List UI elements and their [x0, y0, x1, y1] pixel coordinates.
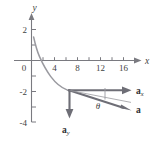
x-axis-label: x	[144, 56, 150, 66]
x-tick-label-12: 12	[96, 63, 105, 73]
y-tick-label-2: 2	[23, 25, 28, 35]
angle-theta-label: θ	[96, 101, 101, 111]
vector-label-a-y-sub: y	[66, 129, 70, 136]
x-axis-arrowhead	[134, 58, 142, 64]
x-tick-label-4: 4	[52, 63, 57, 73]
y-axis-arrowhead	[29, 13, 35, 20]
x-tick-labels: 0 4 8 12 16	[22, 63, 129, 73]
vector-a-y	[66, 90, 74, 118]
vector-a-arrowhead	[120, 104, 132, 110]
vector-labels-group: ax ay a θ	[62, 86, 144, 136]
vector-diagram-figure: 0 4 8 12 16 2 -2 -4 x y	[0, 0, 160, 142]
vector-a-x-arrowhead	[122, 86, 132, 94]
vector-label-a-x-sub: x	[140, 90, 144, 97]
y-tick-labels: 2 -2 -4	[20, 25, 28, 128]
vector-label-a-x: ax	[136, 86, 144, 97]
vector-label-a-y: ay	[62, 125, 70, 136]
vector-label-a: a	[136, 105, 141, 115]
x-tick-label-0: 0	[22, 63, 27, 73]
y-axis-label: y	[31, 3, 37, 13]
vector-a-y-arrowhead	[66, 109, 74, 119]
x-tick-label-16: 16	[119, 63, 129, 73]
x-tick-label-8: 8	[75, 63, 80, 73]
y-tick-label-m2: -2	[20, 87, 28, 97]
y-tick-label-m4: -4	[20, 118, 28, 128]
vector-label-a-main: a	[136, 105, 141, 115]
